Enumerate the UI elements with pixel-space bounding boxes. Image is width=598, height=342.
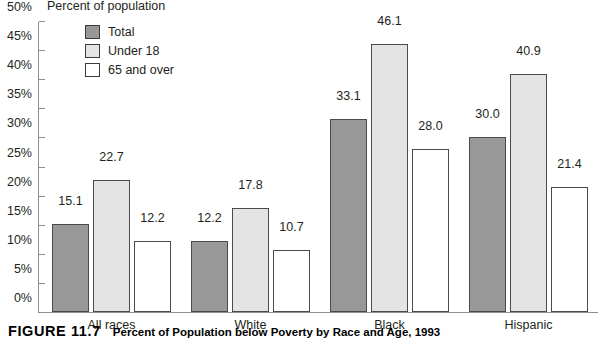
- figure-number: FIGURE 11.7: [8, 323, 101, 339]
- bar[interactable]: [191, 241, 228, 312]
- bar-value-label: 10.7: [273, 220, 310, 234]
- figure-container: Percent of population TotalUnder 1865 an…: [0, 0, 598, 342]
- y-axis-tick-label: 50%: [7, 0, 32, 14]
- bar[interactable]: [551, 187, 588, 312]
- bar-value-label: 12.2: [134, 211, 171, 225]
- bar[interactable]: [371, 44, 408, 312]
- y-axis-tick: [39, 137, 45, 138]
- bar-value-label: 12.2: [191, 211, 228, 225]
- y-axis-tick-label: 20%: [7, 175, 32, 189]
- bar[interactable]: [330, 119, 367, 312]
- x-axis-group-label: Hispanic: [469, 318, 588, 332]
- figure-title: Percent of Population below Poverty by R…: [113, 326, 440, 338]
- y-axis-tick-label: 15%: [7, 204, 32, 218]
- y-axis-tick-label: 10%: [7, 233, 32, 247]
- bar[interactable]: [52, 224, 89, 312]
- y-axis-tick-label: 40%: [7, 58, 32, 72]
- bar[interactable]: [510, 74, 547, 312]
- y-axis-tick-label: 0%: [14, 291, 32, 305]
- bar-value-label: 46.1: [371, 14, 408, 28]
- y-axis-tick-label: 25%: [7, 146, 32, 160]
- bar-value-label: 28.0: [412, 119, 449, 133]
- y-axis-tick: [39, 167, 45, 168]
- figure-caption: FIGURE 11.7Percent of Population below P…: [8, 322, 440, 340]
- y-axis-tick-label: 35%: [7, 87, 32, 101]
- bar-value-label: 40.9: [510, 44, 547, 58]
- y-axis-tick: [39, 196, 45, 197]
- bar-value-label: 30.0: [469, 107, 506, 121]
- plot-area: 0%5%10%15%20%25%30%35%40%45%50%15.122.71…: [38, 22, 598, 313]
- y-axis-title: Percent of population: [47, 0, 165, 13]
- y-axis-tick: [39, 79, 45, 80]
- bar-value-label: 22.7: [93, 150, 130, 164]
- bar-value-label: 21.4: [551, 157, 588, 171]
- y-axis-tick: [39, 254, 45, 255]
- bar[interactable]: [273, 250, 310, 312]
- bar-value-label: 33.1: [330, 89, 367, 103]
- y-axis-line: [38, 22, 39, 313]
- y-axis-tick-label: 45%: [7, 29, 32, 43]
- bar-value-label: 17.8: [232, 178, 269, 192]
- bar-value-label: 15.1: [52, 194, 89, 208]
- y-axis-tick: [39, 108, 45, 109]
- y-axis-tick: [39, 225, 45, 226]
- y-axis-tick: [39, 283, 45, 284]
- y-axis-tick: [39, 21, 45, 22]
- y-axis-tick: [39, 50, 45, 51]
- bar[interactable]: [469, 137, 506, 312]
- bar[interactable]: [93, 180, 130, 312]
- bar[interactable]: [134, 241, 171, 312]
- y-axis-tick-label: 5%: [14, 262, 32, 276]
- bar[interactable]: [232, 208, 269, 312]
- y-axis-tick: [39, 312, 45, 313]
- y-axis-tick-label: 30%: [7, 116, 32, 130]
- x-axis-line: [38, 312, 598, 313]
- bar[interactable]: [412, 149, 449, 312]
